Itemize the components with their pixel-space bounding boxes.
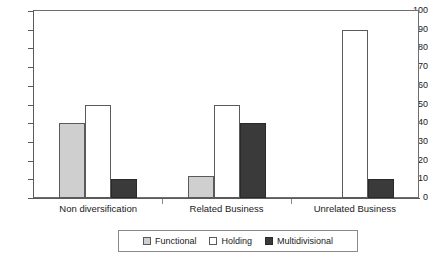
legend-label: Holding xyxy=(221,237,252,246)
bar-functional xyxy=(188,176,214,198)
bar-chart: 1009080706050403020100 Non diversificati… xyxy=(0,0,428,262)
chart-legend: FunctionalHoldingMultidivisional xyxy=(118,230,358,252)
x-axis-category-label: Non diversification xyxy=(34,203,162,215)
bar-multidivisional xyxy=(111,179,137,198)
x-axis-category-label: Related Business xyxy=(162,203,290,215)
bars-layer xyxy=(34,11,419,198)
legend-swatch-icon xyxy=(265,237,273,245)
legend-item-functional: Functional xyxy=(143,237,197,246)
x-axis-line xyxy=(33,198,420,199)
bar-holding xyxy=(342,30,368,198)
bar-holding xyxy=(214,105,240,199)
legend-item-multidivisional: Multidivisional xyxy=(265,237,333,246)
legend-swatch-icon xyxy=(143,237,151,245)
bar-functional xyxy=(59,123,85,198)
bar-multidivisional xyxy=(240,123,266,198)
x-axis-category-label: Unrelated Business xyxy=(291,203,419,215)
legend-label: Multidivisional xyxy=(277,237,333,246)
legend-label: Functional xyxy=(155,237,197,246)
legend-swatch-icon xyxy=(209,237,217,245)
bar-holding xyxy=(85,105,111,199)
legend-item-holding: Holding xyxy=(209,237,252,246)
bar-multidivisional xyxy=(368,179,394,198)
